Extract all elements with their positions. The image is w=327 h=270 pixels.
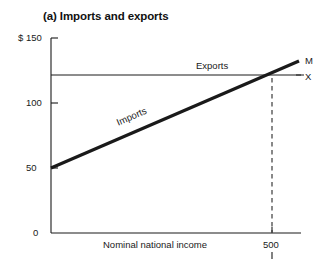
exports-endpoint-label-x: X (305, 72, 311, 82)
x-axis-label-500: 500 (263, 240, 279, 250)
imports-line (51, 61, 299, 168)
exports-curve-label: Exports (196, 61, 228, 71)
y-axis-label-50: 50 (26, 163, 37, 173)
chart-plot-area (0, 0, 327, 270)
x-axis-title: Nominal national income (103, 240, 207, 250)
y-axis-label-0: 0 (33, 228, 38, 238)
y-axis-label-100: 100 (26, 98, 42, 108)
chart-figure: (a) Imports and exports $ 150 100 50 0 5… (0, 0, 327, 270)
y-axis-label-150: $ 150 (18, 33, 42, 43)
imports-endpoint-label-m: M (305, 56, 313, 66)
